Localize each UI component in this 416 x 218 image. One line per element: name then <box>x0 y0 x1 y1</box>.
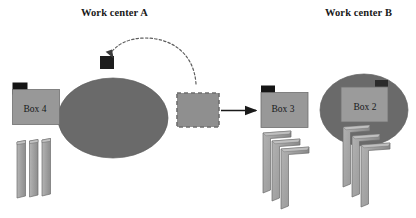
part-sheet <box>17 141 26 199</box>
box2-label: Box 2 <box>344 102 386 112</box>
part-angle <box>361 143 390 207</box>
queue-box <box>177 93 219 127</box>
work-center-flow-diagram: Work center A Work center B <box>0 0 416 218</box>
work-center-a-tab <box>100 56 114 69</box>
stack-box3 <box>263 131 309 209</box>
box4-label: Box 4 <box>14 104 56 114</box>
feedback-arrow <box>106 38 196 84</box>
box3-label: Box 3 <box>262 104 304 114</box>
part-sheet <box>42 139 51 197</box>
part-angle <box>281 147 309 209</box>
work-center-a-group <box>58 56 168 158</box>
stack-box4 <box>17 139 51 199</box>
part-sheet <box>30 140 39 198</box>
work-center-a-ellipse <box>58 78 168 158</box>
